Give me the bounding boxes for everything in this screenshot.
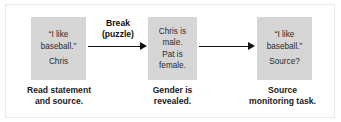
arrow-label-break-puzzle: Break (puzzle) <box>86 18 150 40</box>
caption-line: revealed. <box>126 96 219 107</box>
arrow-label-line: Break <box>86 18 150 29</box>
caption-line: monitoring task. <box>224 96 341 107</box>
arrow-shaft <box>88 46 141 47</box>
caption-line: Source <box>224 85 341 96</box>
flow-box-source-monitoring: “I like baseball.” Source? <box>257 17 312 80</box>
box-text-line: “I like <box>275 29 295 41</box>
flow-box-gender-revealed: Chris is male. Pat is female. <box>148 17 197 80</box>
box-text-line: baseball.” <box>267 41 303 53</box>
arrow-label-line: (puzzle) <box>86 29 150 40</box>
arrow-head <box>248 42 255 50</box>
box-text-line: Source? <box>269 56 300 68</box>
flow-box-read-statement: “I like baseball.” Chris <box>31 17 86 80</box>
box-text-line: “I like <box>49 29 69 41</box>
flow-caption-source-monitoring: Source monitoring task. <box>224 85 341 107</box>
flow-arrow-icon <box>88 42 148 51</box>
caption-line: Gender is <box>126 85 219 96</box>
box-text-line: male. <box>162 37 182 49</box>
flow-arrow-icon <box>199 42 256 51</box>
caption-line: Read statement <box>0 85 118 96</box>
arrow-head <box>140 42 147 50</box>
process-flow-figure: “I like baseball.” Chris Chris is male. … <box>0 0 341 122</box>
box-text-line: Pat is <box>162 49 182 61</box>
box-text-line: Chris <box>49 56 68 68</box>
flow-caption-read-statement: Read statement and source. <box>0 85 118 107</box>
arrow-shaft <box>199 46 249 47</box>
box-text-line: baseball.” <box>41 41 77 53</box>
caption-line: and source. <box>0 96 118 107</box>
box-text-line: Chris is <box>159 26 186 38</box>
flow-caption-gender-revealed: Gender is revealed. <box>126 85 219 107</box>
box-text-line: female. <box>159 60 186 72</box>
